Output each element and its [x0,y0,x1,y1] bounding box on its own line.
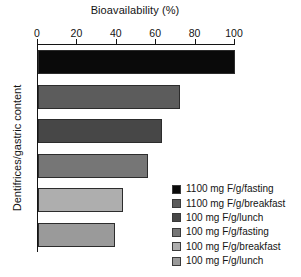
x-tick-mark-80 [195,39,196,45]
legend-item-4: 100 mg F/g/breakfast [172,240,300,254]
bar-row [38,50,234,74]
legend-item-5: 100 mg F/g/lunch [172,254,300,268]
legend-label: 1100 mg F/g/fasting [186,184,274,194]
x-axis-tick-labels: 020406080100 [0,27,301,41]
bioavailability-bar-chart: Bioavailability (%) 020406080100 Dentifr… [0,0,301,277]
legend-swatch-icon [172,199,181,208]
bar-2 [38,119,162,143]
legend-item-2: 100 mg F/g/lunch [172,211,300,225]
chart-title: Bioavailability (%) [37,4,233,16]
legend-label: 1100 mg F/g/breakfast [186,199,285,209]
legend-item-0: 1100 mg F/g/fasting [172,182,300,196]
bar-5 [38,223,115,247]
x-tick-label-80: 80 [189,27,201,39]
bar-0 [38,50,235,74]
x-tick-label-20: 20 [71,27,83,39]
bar-3 [38,154,148,178]
legend-swatch-icon [172,185,181,194]
x-tick-mark-40 [116,39,117,45]
x-tick-mark-100 [234,39,235,45]
x-tick-label-40: 40 [110,27,122,39]
legend-label: 100 mg F/g/fasting [186,227,269,237]
bar-row [38,154,234,178]
chart-legend: 1100 mg F/g/fasting1100 mg F/g/breakfast… [172,182,300,268]
legend-swatch-icon [172,213,181,222]
legend-swatch-icon [172,242,181,251]
bar-row [38,85,234,109]
x-tick-mark-20 [76,39,77,45]
bar-1 [38,85,180,109]
x-tick-mark-0 [37,39,38,45]
legend-item-3: 100 mg F/g/fasting [172,225,300,239]
x-tick-label-60: 60 [149,27,161,39]
x-tick-label-0: 0 [34,27,40,39]
legend-swatch-icon [172,228,181,237]
legend-label: 100 mg F/g/lunch [186,256,263,266]
bar-4 [38,188,123,212]
legend-swatch-icon [172,257,181,266]
legend-item-1: 1100 mg F/g/breakfast [172,196,300,210]
y-axis-title: Dentifrices/gastric content [11,43,23,253]
bar-row [38,119,234,143]
x-tick-label-100: 100 [225,27,243,39]
legend-label: 100 mg F/g/breakfast [186,242,281,252]
x-tick-mark-60 [155,39,156,45]
legend-label: 100 mg F/g/lunch [186,213,263,223]
